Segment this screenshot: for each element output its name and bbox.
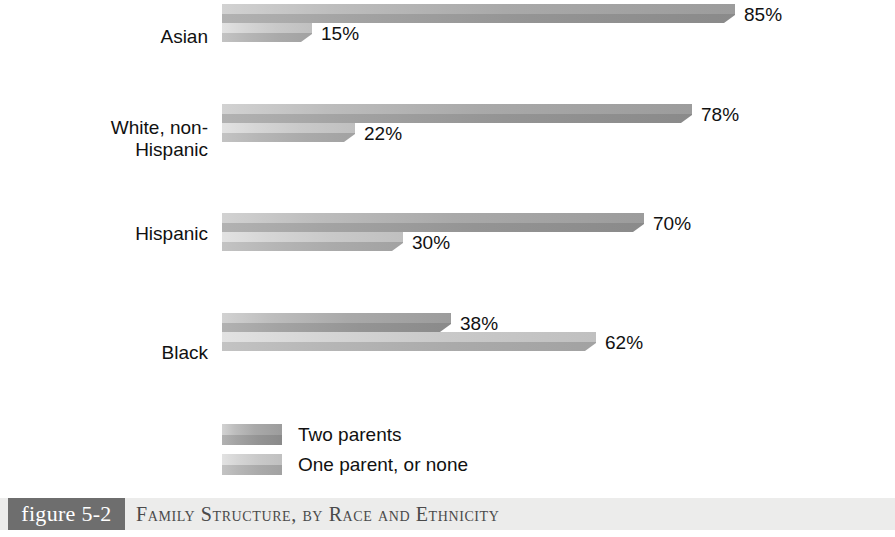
bar-value-label: 15% (321, 23, 359, 42)
category-label: Asian (0, 26, 208, 48)
bar-value-label: 22% (364, 123, 402, 142)
bar-group: Hispanic70%30% (0, 213, 895, 251)
chart-legend: Two parents One parent, or none (222, 421, 622, 481)
legend-swatch-one-parent (222, 454, 282, 475)
bar-one-parent (222, 232, 403, 251)
bar-two-parents (222, 213, 644, 232)
bar-row: 30% (222, 232, 872, 251)
bar-row: 70% (222, 213, 872, 232)
bar-row: 22% (222, 123, 872, 142)
bar-two-parents (222, 104, 692, 123)
bar-row: 15% (222, 23, 872, 42)
category-label: White, non- Hispanic (0, 117, 208, 161)
bar-one-parent (222, 23, 312, 42)
bar-value-label: 38% (460, 313, 498, 332)
category-label: Hispanic (0, 223, 208, 245)
bar-value-label: 85% (744, 4, 782, 23)
category-label: Black (0, 342, 208, 364)
bar-one-parent (222, 123, 355, 142)
bar-group: White, non- Hispanic78%22% (0, 104, 895, 142)
bar-value-label: 78% (701, 104, 739, 123)
bar-two-parents (222, 313, 451, 332)
legend-label-one-parent: One parent, or none (298, 451, 468, 479)
figure-container: Asian85%15%White, non- Hispanic78%22%His… (0, 0, 895, 537)
bar-group: Asian85%15% (0, 4, 895, 42)
legend-label-two-parents: Two parents (298, 421, 402, 449)
bar-value-label: 70% (653, 213, 691, 232)
bar-value-label: 30% (412, 232, 450, 251)
bar-two-parents (222, 4, 735, 23)
bar-row: 85% (222, 4, 872, 23)
bar-group: Black38%62% (0, 313, 895, 351)
legend-item-one-parent: One parent, or none (222, 451, 622, 481)
figure-caption-band: figure 5-2 Family Structure, by Race and… (0, 498, 895, 530)
bar-row: 38% (222, 313, 872, 332)
legend-item-two-parents: Two parents (222, 421, 622, 451)
legend-swatch-two-parents (222, 424, 282, 445)
bar-row: 78% (222, 104, 872, 123)
figure-number-tag: figure 5-2 (8, 498, 125, 530)
bar-one-parent (222, 332, 596, 351)
bar-chart-plot: Asian85%15%White, non- Hispanic78%22%His… (0, 0, 895, 410)
bar-value-label: 62% (605, 332, 643, 351)
figure-caption-title: Family Structure, by Race and Ethnicity (136, 498, 499, 530)
bar-row: 62% (222, 332, 872, 351)
